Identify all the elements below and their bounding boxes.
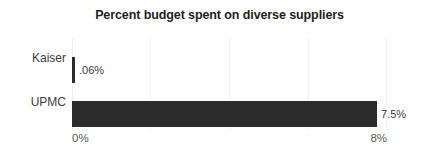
category-label-upmc: UPMC bbox=[6, 95, 66, 109]
bar-row-kaiser: .06% bbox=[72, 57, 387, 83]
bar-chart-figure: Percent budget spent on diverse supplier… bbox=[0, 0, 439, 159]
x-axis-tick-labels: 0% 8% bbox=[0, 132, 439, 152]
chart-title: Percent budget spent on diverse supplier… bbox=[0, 8, 439, 22]
bar-value-kaiser: .06% bbox=[75, 64, 104, 76]
category-label-kaiser: Kaiser bbox=[6, 51, 66, 65]
bar-row-upmc: 7.5% bbox=[72, 101, 387, 127]
bar-value-upmc: 7.5% bbox=[377, 108, 406, 120]
x-tick-label-0: 0% bbox=[72, 132, 89, 144]
x-tick-label-8: 8% bbox=[370, 132, 387, 144]
bar-upmc[interactable] bbox=[72, 101, 377, 127]
category-axis-labels: Kaiser UPMC bbox=[0, 38, 66, 130]
plot-area: .06% 7.5% bbox=[72, 38, 387, 130]
